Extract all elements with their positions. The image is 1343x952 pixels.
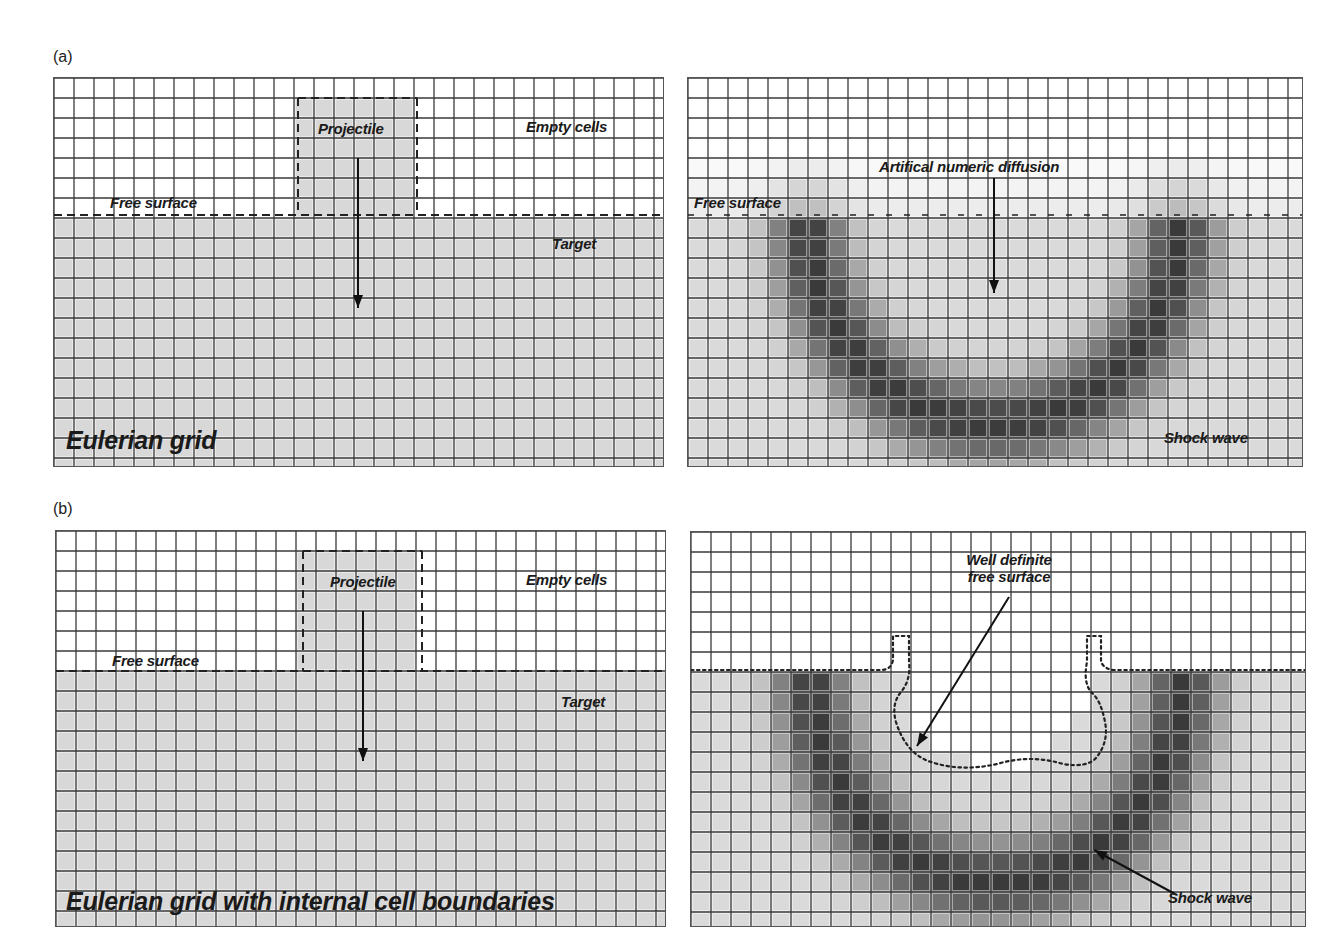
panel-a-right-diffusion: Artifical numeric diffusion Free surface… [687,77,1303,467]
label-empty-cells: Empty cells [526,118,607,135]
label-empty-cells: Empty cells [526,571,607,588]
panel-title-internal-boundaries: Eulerian grid with internal cell boundar… [66,887,555,916]
panel-title-eulerian-grid: Eulerian grid [66,426,216,455]
label-free-surface: Free surface [112,652,199,669]
grid-a-right [688,78,1303,467]
label-shock-wave: Shock wave [1168,889,1252,906]
label-projectile: Projectile [318,120,384,137]
grid-b-left [56,531,666,927]
label-free-surface: Free surface [694,194,781,211]
label-artificial-numeric-diffusion: Artifical numeric diffusion [879,158,1059,175]
label-well-definite-free-surface: Well definite free surface [939,551,1079,585]
panel-label-b: (b) [53,500,73,518]
label-line1: Well definite [966,551,1051,568]
label-target: Target [552,235,596,252]
label-free-surface: Free surface [110,194,197,211]
label-line2: free surface [968,568,1051,585]
panel-a-left-eulerian-grid: Projectile Empty cells Free surface Targ… [53,77,664,467]
grid-b-right [691,532,1306,927]
label-shock-wave: Shock wave [1164,429,1248,446]
panel-label-a: (a) [53,48,73,66]
label-projectile: Projectile [330,573,396,590]
panel-b-left-internal-boundaries: Projectile Empty cells Free surface Targ… [55,530,666,927]
panel-b-right-well-defined-surface: Well definite free surface Shock wave [690,531,1306,927]
label-target: Target [561,693,605,710]
